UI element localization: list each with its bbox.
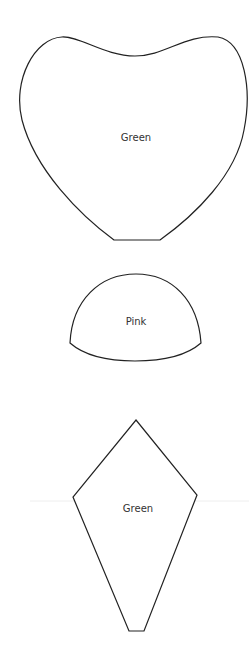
kite-leaf-outline [73,420,197,631]
heart-petal-label: Green [121,132,151,143]
dome-label: Pink [126,316,147,327]
heart-petal-piece: Green [20,37,247,240]
pattern-canvas: Green Pink Green [0,0,249,662]
kite-leaf-label: Green [123,503,153,514]
dome-piece: Pink [70,274,201,361]
kite-leaf-piece: Green [73,420,197,631]
